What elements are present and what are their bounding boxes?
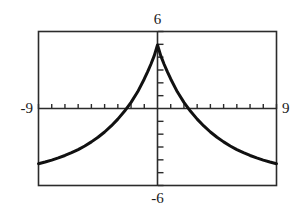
xmax-label: 9: [282, 100, 290, 116]
ymax-label: 6: [154, 11, 162, 27]
graph-svg: 6 -9 9 -6: [0, 0, 298, 218]
graph-window: 6 -9 9 -6: [0, 0, 298, 218]
xmin-label: -9: [21, 100, 34, 116]
ymin-label: -6: [151, 190, 164, 206]
